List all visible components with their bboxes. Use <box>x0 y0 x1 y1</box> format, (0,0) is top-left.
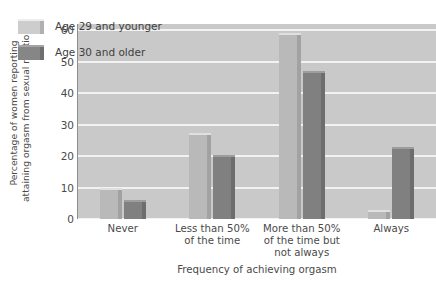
x-axis-tick-3: Always <box>333 223 436 235</box>
legend-swatch-icon-series-1 <box>18 45 44 60</box>
x-axis-tick-line: of the time but <box>243 235 361 247</box>
bar-group-2 <box>257 24 347 219</box>
bar-3-1 <box>392 147 414 219</box>
bar-0-1 <box>124 200 146 219</box>
bar-chart: Percentage of women reporting attaining … <box>0 0 436 284</box>
y-axis-tick-30: 30 <box>42 119 74 131</box>
bar-3-0 <box>368 210 390 219</box>
legend-swatch-icon-series-0 <box>18 19 44 34</box>
bar-group-3 <box>347 24 436 219</box>
x-axis-tick-labels: NeverLess than 50%of the timeMore than 5… <box>78 223 436 263</box>
bar-1-0 <box>189 133 211 219</box>
legend: Age 29 and younger Age 30 and older <box>18 13 218 65</box>
x-axis-tick-line: not always <box>243 247 361 259</box>
legend-item-series-0: Age 29 and younger <box>18 13 218 39</box>
bar-2-1 <box>303 71 325 219</box>
x-axis-tick-line: Always <box>333 223 436 235</box>
y-axis-tick-10: 10 <box>42 182 74 194</box>
bar-2-0 <box>279 33 301 219</box>
x-axis-title: Frequency of achieving orgasm <box>78 264 436 275</box>
legend-label-series-1: Age 30 and older <box>55 46 145 58</box>
y-axis-tick-40: 40 <box>42 87 74 99</box>
bar-1-1 <box>213 155 235 219</box>
legend-item-series-1: Age 30 and older <box>18 39 218 65</box>
legend-label-series-0: Age 29 and younger <box>55 20 162 32</box>
y-axis-tick-20: 20 <box>42 150 74 162</box>
bar-0-0 <box>100 188 122 219</box>
